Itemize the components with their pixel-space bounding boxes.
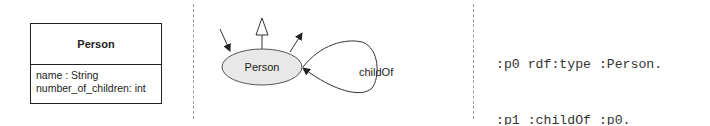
node-label: Person [245, 61, 280, 73]
rdf-triples-block: :p0 rdf:type :Person. :p1 :childOf :p0. … [496, 19, 662, 125]
dashed-divider-right [473, 4, 474, 119]
outgoing-edge-arrow [290, 33, 302, 52]
rdf-triple: :p0 rdf:type :Person. [496, 56, 662, 75]
edge-label: childOf [359, 66, 394, 78]
subclass-triangle-icon [256, 18, 268, 35]
incoming-edge-arrow [220, 29, 230, 51]
rdf-triple: :p1 :childOf :p0. [496, 112, 662, 126]
